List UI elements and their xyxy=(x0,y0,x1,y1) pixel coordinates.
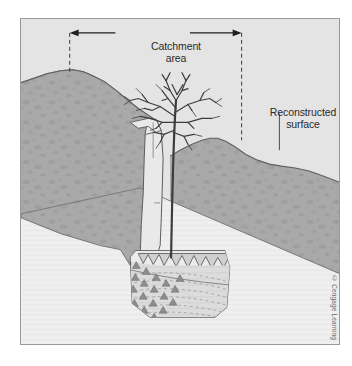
reconstructed-surface-label: Reconstructed surface xyxy=(255,107,340,131)
cave-deposit-interior xyxy=(128,251,235,322)
figure-frame: Catchment area Reconstructed surface © C… xyxy=(20,18,340,345)
copyright-credit: © Cengage Learning xyxy=(331,275,338,340)
catchment-area-label: Catchment area xyxy=(139,41,213,65)
cross-section-illustration xyxy=(21,19,339,344)
